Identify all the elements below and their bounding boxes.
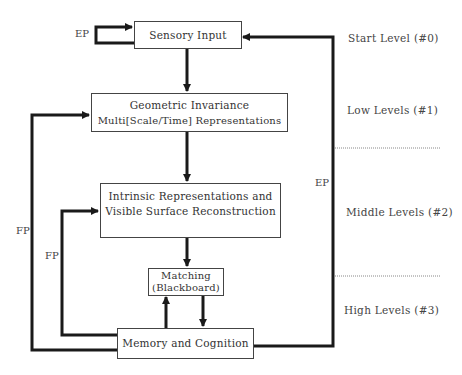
node-intrinsic-label-2: Visible Surface Reconstruction <box>105 204 276 219</box>
node-matching-blackboard: Matching (Blackboard) <box>148 268 224 296</box>
edge-label-fp-inner: FP <box>45 250 59 261</box>
level-label-low: Low Levels (#1) <box>347 104 438 116</box>
node-memory-cognition: Memory and Cognition <box>117 328 254 359</box>
node-geometric-invariance: Geometric Invariance Multi[Scale/Time] R… <box>91 93 288 132</box>
node-memory-label: Memory and Cognition <box>122 335 248 351</box>
edge-label-ep-self: EP <box>75 28 89 39</box>
node-matching-label-2: (Blackboard) <box>152 282 220 294</box>
edge-label-ep-right: EP <box>315 177 329 188</box>
level-label-start: Start Level (#0) <box>348 32 439 44</box>
node-geometric-label-2: Multi[Scale/Time] Representations <box>98 113 282 129</box>
level-label-high: High Levels (#3) <box>344 304 439 316</box>
edge-label-fp-outer: FP <box>16 225 30 236</box>
node-matching-label-1: Matching <box>161 270 211 282</box>
node-intrinsic-label-1: Intrinsic Representations and <box>108 189 272 204</box>
ep-self-loop-arrow <box>96 27 134 43</box>
node-sensory-input-label: Sensory Input <box>149 27 226 43</box>
node-intrinsic-representations: Intrinsic Representations and Visible Su… <box>100 183 281 238</box>
node-sensory-input: Sensory Input <box>134 21 242 49</box>
node-geometric-label-1: Geometric Invariance <box>130 97 250 113</box>
level-label-middle: Middle Levels (#2) <box>346 206 453 218</box>
